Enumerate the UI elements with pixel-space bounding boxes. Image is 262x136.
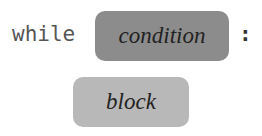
condition-label: condition	[119, 23, 206, 49]
condition-box: condition	[95, 11, 229, 61]
block-label: block	[106, 89, 156, 115]
colon-symbol: :	[239, 20, 252, 48]
while-keyword: while	[12, 20, 75, 48]
block-box: block	[73, 77, 189, 127]
